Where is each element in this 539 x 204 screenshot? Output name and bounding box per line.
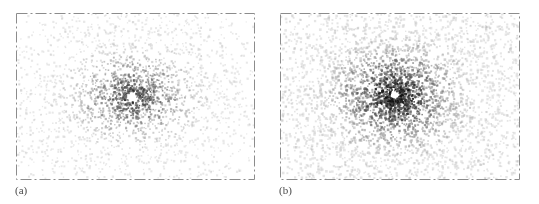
panel-a [16,13,255,180]
panel-b-label: (b) [279,184,292,196]
scatter-plot-a [16,13,255,180]
scatter-plot-b [280,13,520,180]
figure-two-panel-scatter: (a) (b) [0,0,539,204]
panel-b [280,13,520,180]
panel-a-label: (a) [15,184,27,196]
